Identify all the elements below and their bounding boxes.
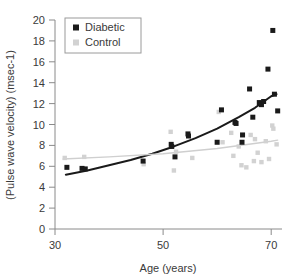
y-tick-label: 0: [39, 223, 45, 235]
data-point: [215, 140, 220, 145]
data-point: [274, 142, 278, 146]
data-point: [270, 28, 275, 33]
fit-line-group: [63, 94, 278, 174]
legend-label-diabetic: Diabetic: [85, 21, 125, 33]
data-point: [231, 154, 235, 158]
data-point: [190, 156, 194, 160]
data-point: [264, 139, 268, 143]
chart-legend: Diabetic Control: [65, 18, 141, 53]
y-tick-label: 16: [33, 56, 45, 68]
data-point: [250, 115, 255, 120]
data-point: [271, 126, 275, 130]
data-point: [247, 86, 252, 91]
data-point: [275, 108, 280, 113]
x-axis-title: Age (years): [140, 262, 197, 274]
data-point: [174, 149, 178, 153]
y-tick-label: 4: [39, 181, 45, 193]
y-tick-label: 18: [33, 35, 45, 47]
y-tick-label: 14: [33, 77, 45, 89]
data-point: [169, 144, 174, 149]
data-point: [244, 165, 248, 169]
legend-swatch-control: [73, 40, 79, 46]
data-point: [141, 159, 146, 164]
x-tick-label: 30: [49, 239, 61, 251]
data-point: [240, 132, 245, 137]
data-point: [272, 92, 277, 97]
y-tick-label: 6: [39, 160, 45, 172]
data-point: [83, 166, 88, 171]
data-point: [219, 107, 224, 112]
data-point: [255, 151, 259, 155]
data-point: [240, 140, 245, 145]
data-point: [259, 160, 263, 164]
data-point: [168, 130, 172, 134]
data-point: [267, 157, 271, 161]
y-tick-label: 2: [39, 202, 45, 214]
data-point: [265, 67, 270, 72]
legend-label-control: Control: [85, 36, 120, 48]
data-point: [220, 140, 224, 144]
y-tick-label: 20: [33, 14, 45, 26]
data-point: [186, 134, 191, 139]
x-axis-ticks: 305070: [49, 229, 277, 251]
y-tick-label: 8: [39, 139, 45, 151]
data-point: [172, 154, 177, 159]
data-point: [172, 168, 176, 172]
data-point: [237, 144, 241, 148]
data-point: [253, 137, 257, 141]
data-point: [82, 155, 86, 159]
y-tick-label: 10: [33, 119, 45, 131]
chart-figure: 02468101214161820 305070 Age (years) (Pu…: [0, 0, 288, 280]
data-point: [229, 131, 233, 135]
y-axis-ticks: 02468101214161820: [33, 14, 55, 235]
y-tick-label: 12: [33, 98, 45, 110]
data-point: [63, 156, 67, 160]
legend-swatch-diabetic: [73, 25, 79, 31]
data-point: [239, 163, 243, 167]
x-tick-label: 50: [157, 239, 169, 251]
data-point: [234, 121, 239, 126]
x-tick-label: 70: [265, 239, 277, 251]
data-point: [248, 133, 252, 137]
data-point: [261, 99, 266, 104]
data-point: [252, 159, 256, 163]
scatter-plot: 02468101214161820 305070 Age (years) (Pu…: [0, 0, 288, 280]
y-axis-title: (Pulse wave velocity) (msec-1): [4, 50, 16, 200]
data-point: [64, 165, 69, 170]
